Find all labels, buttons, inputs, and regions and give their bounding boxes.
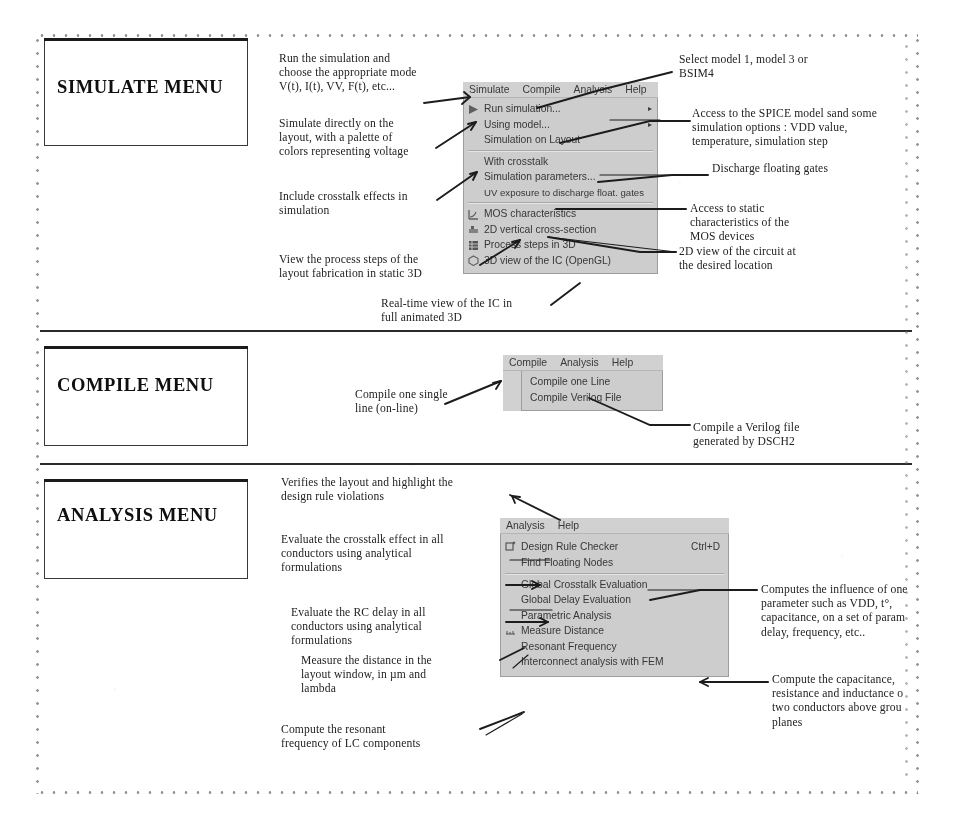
compile-menubar[interactable]: Compile Analysis Help (503, 355, 663, 371)
compile-menu-window[interactable]: Compile Analysis Help Compile one Line C… (503, 355, 663, 411)
section-divider-1 (40, 330, 912, 332)
analysis-menu-window[interactable]: Analysis Help Design Rule Checker Ctrl+D… (500, 518, 729, 677)
annotation-parametric-analysis: Computes the influence of one parameter … (761, 583, 937, 640)
menu-item-label: Find Floating Nodes (521, 557, 613, 568)
annotation-2d-view-circuit: 2D view of the circuit at the desired lo… (679, 245, 859, 273)
menu-separator (505, 573, 724, 575)
menu-separator (468, 150, 653, 152)
menu-item-2d-cross-section[interactable]: 2D vertical cross-section (464, 222, 657, 238)
menu-item-label: Simulation on Layout (484, 134, 580, 145)
menu-item-global-crosstalk-evaluation[interactable]: Global Crosstalk Evaluation (501, 577, 728, 593)
ruler-icon (505, 626, 516, 637)
menu-item-process-steps-3d[interactable]: Process steps in 3D (464, 237, 657, 253)
menu-item-design-rule-checker[interactable]: Design Rule Checker Ctrl+D (501, 538, 728, 555)
scan-artifact-right (905, 40, 908, 780)
menu-item-label: Resonant Frequency (521, 641, 617, 652)
section-title-simulate: SIMULATE MENU (57, 77, 223, 98)
process-3d-icon (468, 240, 479, 251)
menu-item-label: Simulation parameters... (484, 171, 596, 182)
page-frame-bottom (36, 791, 918, 794)
title-box-top-rule (44, 38, 248, 41)
menu-item-shortcut: Ctrl+D (691, 541, 720, 552)
menubar-item-analysis[interactable]: Analysis (574, 84, 613, 95)
annotation-process-steps: View the process steps of the layout fab… (279, 253, 489, 281)
analysis-menubar[interactable]: Analysis Help (500, 518, 729, 534)
annotation-compile-verilog: Compile a Verilog file generated by DSCH… (693, 421, 893, 449)
menu-item-using-model[interactable]: Using model... ▸ (464, 117, 657, 133)
menu-item-label: MOS characteristics (484, 208, 576, 219)
menu-item-label: Process steps in 3D (484, 239, 576, 250)
menubar-item-analysis[interactable]: Analysis (560, 357, 599, 368)
menu-item-label: Compile one Line (530, 376, 610, 387)
menu-item-label: Parametric Analysis (521, 610, 611, 621)
menu-item-with-crosstalk[interactable]: With crosstalk (464, 154, 657, 170)
annotation-static-characteristics: Access to static characteristics of the … (690, 202, 850, 245)
menubar-item-analysis[interactable]: Analysis (506, 520, 545, 531)
annotation-discharge-gates: Discharge floating gates (712, 162, 912, 176)
cross-section-icon (468, 224, 479, 235)
menu-item-label: Design Rule Checker (521, 541, 618, 552)
menu-item-label: 3D view of the IC (OpenGL) (484, 255, 611, 266)
menu-item-simulation-parameters[interactable]: Simulation parameters... (464, 169, 657, 185)
menu-item-interconnect-analysis-fem[interactable]: Interconnect analysis with FEM (501, 654, 728, 670)
menu-item-label: Using model... (484, 119, 550, 130)
menu-item-label: Run simulation... (484, 103, 561, 114)
drc-icon (505, 541, 516, 552)
section-title-box-compile: COMPILE MENU (44, 346, 248, 446)
menubar-item-help[interactable]: Help (612, 357, 633, 368)
section-title-box-simulate: SIMULATE MENU (44, 38, 248, 146)
section-divider-2 (40, 463, 912, 465)
annotation-resonant-frequency: Compute the resonant frequency of LC com… (281, 723, 481, 751)
section-title-compile: COMPILE MENU (57, 375, 214, 396)
title-box-top-rule (44, 479, 248, 482)
menu-item-label: UV exposure to discharge float. gates (484, 187, 644, 198)
run-icon (468, 104, 479, 115)
annotation-design-rule-checker: Verifies the layout and highlight the de… (281, 476, 511, 504)
compile-dropdown-panel[interactable]: Compile one Line Compile Verilog File (521, 371, 663, 411)
menubar-item-help[interactable]: Help (558, 520, 579, 531)
menu-item-run-simulation[interactable]: Run simulation... ▸ (464, 101, 657, 117)
menu-separator (468, 202, 653, 204)
section-title-box-analysis: ANALYSIS MENU (44, 479, 248, 579)
title-box-top-rule (44, 346, 248, 349)
menu-item-compile-verilog-file[interactable]: Compile Verilog File (522, 390, 662, 406)
menu-item-label: Global Crosstalk Evaluation (521, 579, 647, 590)
simulate-menu-window[interactable]: Simulate Compile Analysis Help Run simul… (463, 82, 658, 274)
annotation-crosstalk-evaluation: Evaluate the crosstalk effect in all con… (281, 533, 506, 576)
scanned-document-page: SIMULATE MENU Simulate Compile Analysis … (0, 0, 957, 830)
menu-item-label: Compile Verilog File (530, 392, 622, 403)
menubar-item-compile[interactable]: Compile (509, 357, 547, 368)
menu-item-label: With crosstalk (484, 156, 548, 167)
menu-item-3d-view-opengl[interactable]: 3D view of the IC (OpenGL) (464, 253, 657, 269)
menu-item-mos-characteristics[interactable]: MOS characteristics (464, 206, 657, 222)
menu-item-label: Global Delay Evaluation (521, 594, 631, 605)
annotation-include-crosstalk: Include crosstalk effects in simulation (279, 190, 484, 218)
submenu-arrow-icon: ▸ (648, 104, 652, 113)
simulate-menubar[interactable]: Simulate Compile Analysis Help (463, 82, 658, 98)
menu-item-measure-distance[interactable]: Measure Distance (501, 623, 728, 639)
menu-item-global-delay-evaluation[interactable]: Global Delay Evaluation (501, 592, 728, 608)
menu-item-label: 2D vertical cross-section (484, 224, 596, 235)
menu-item-simulation-on-layout[interactable]: Simulation on Layout (464, 132, 657, 148)
analysis-dropdown-panel[interactable]: Design Rule Checker Ctrl+D Find Floating… (500, 534, 729, 677)
annotation-rc-delay: Evaluate the RC delay in all conductors … (291, 606, 506, 649)
menu-item-resonant-frequency[interactable]: Resonant Frequency (501, 639, 728, 655)
section-title-analysis: ANALYSIS MENU (57, 505, 218, 526)
page-frame-left (36, 34, 39, 794)
menubar-item-compile[interactable]: Compile (522, 84, 560, 95)
menu-item-label: Interconnect analysis with FEM (521, 656, 664, 667)
menu-item-compile-one-line[interactable]: Compile one Line (522, 374, 662, 390)
annotation-realtime-3d: Real-time view of the IC in full animate… (381, 297, 581, 325)
annotation-spice-options: Access to the SPICE model sand some simu… (692, 107, 917, 150)
annotation-measure-distance: Measure the distance in the layout windo… (301, 654, 501, 697)
menubar-item-help[interactable]: Help (625, 84, 646, 95)
annotation-select-model: Select model 1, model 3 or BSIM4 (679, 53, 889, 81)
menu-item-find-floating-nodes[interactable]: Find Floating Nodes (501, 555, 728, 571)
annotation-interconnect-fem: Compute the capacitance, resistance and … (772, 673, 940, 730)
page-frame-top (36, 34, 918, 37)
menu-item-uv-exposure[interactable]: UV exposure to discharge float. gates (464, 185, 657, 201)
annotation-simulate-on-layout: Simulate directly on the layout, with a … (279, 117, 479, 160)
annotation-run-simulation: Run the simulation and choose the approp… (279, 52, 479, 95)
simulate-dropdown-panel[interactable]: Run simulation... ▸ Using model... ▸ Sim… (463, 98, 658, 274)
menu-item-parametric-analysis[interactable]: Parametric Analysis (501, 608, 728, 624)
